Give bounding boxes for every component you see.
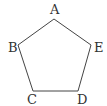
vertex-label-e: E: [94, 40, 104, 55]
vertex-label-b: B: [8, 40, 18, 55]
vertex-label-a: A: [49, 2, 60, 17]
pentagon-shape: [18, 19, 91, 91]
vertex-label-d: D: [77, 92, 87, 106]
vertex-label-c: C: [27, 92, 37, 106]
pentagon-diagram: A E D C B: [0, 0, 107, 106]
